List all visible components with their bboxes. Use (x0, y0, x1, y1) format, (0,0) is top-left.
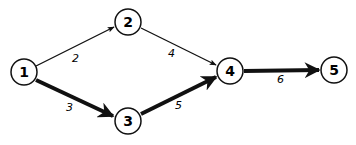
node-1: 1 (11, 59, 37, 85)
edge-1-3: 3 (36, 80, 113, 116)
node-label-1: 1 (19, 64, 29, 80)
edge-4-5: 6 (244, 70, 319, 86)
node-4: 4 (217, 58, 243, 84)
node-5: 5 (321, 57, 347, 83)
edge-weight-2-4: 4 (168, 47, 175, 60)
edge-weight-4-5: 6 (277, 73, 284, 86)
edge-weight-1-2: 2 (72, 52, 79, 65)
edge-weight-1-3: 3 (66, 101, 73, 114)
node-3: 3 (115, 108, 141, 134)
node-2: 2 (115, 9, 141, 35)
node-label-5: 5 (329, 62, 339, 78)
network-diagram: 2 3 4 5 6 1 2 3 4 5 (0, 0, 356, 145)
edge-weight-3-4: 5 (175, 99, 182, 112)
node-label-2: 2 (123, 14, 133, 30)
edge-2-4: 4 (141, 28, 216, 65)
edge-3-4: 5 (141, 77, 216, 114)
edge-1-2: 2 (36, 27, 114, 66)
node-label-3: 3 (123, 113, 133, 129)
node-label-4: 4 (225, 63, 235, 79)
